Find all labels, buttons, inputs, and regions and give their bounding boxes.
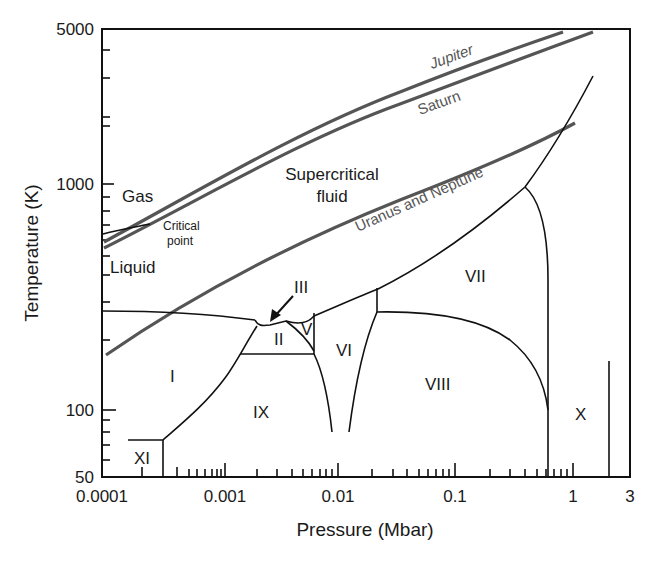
water-phase-diagram: 5000 1000 100 50 0.0001 0.001 0.01 0.1 1…: [0, 0, 650, 561]
label-ice-VIII: VIII: [425, 375, 451, 394]
label-ice-V: V: [301, 320, 313, 339]
label-ice-III: III: [294, 278, 308, 297]
label-jupiter: Jupiter: [426, 40, 476, 72]
label-saturn: Saturn: [415, 87, 462, 118]
y-tick-50: 50: [75, 468, 94, 487]
label-ice-X: X: [575, 405, 586, 424]
label-ice-II: II: [274, 330, 283, 349]
x-tick-1: 1: [568, 487, 577, 506]
melting-curve-ice-I: [103, 311, 255, 320]
label-ice-VII: VII: [465, 267, 486, 286]
x-tick-0.01: 0.01: [321, 487, 354, 506]
label-ice-IX: IX: [253, 403, 269, 422]
y-tick-100: 100: [66, 401, 94, 420]
ice-VI-left-boundary: [314, 354, 332, 432]
label-fluid: fluid: [316, 187, 347, 206]
ice-I-II-boundary: [163, 326, 257, 440]
plot-frame: [102, 29, 630, 477]
label-critical-point: point: [167, 234, 194, 248]
label-critical: Critical: [163, 219, 200, 233]
label-ice-VI: VI: [336, 341, 352, 360]
x-tick-0.1: 0.1: [443, 487, 467, 506]
ice-VII-VIII-boundary: [377, 312, 548, 410]
x-axis-title: Pressure (Mbar): [296, 519, 433, 540]
x-axis-ticks: [142, 463, 573, 477]
y-axis-title: Temperature (K): [21, 184, 42, 321]
jupiter-isentrope: [104, 32, 563, 242]
label-supercritical: Supercritical: [285, 165, 379, 184]
label-liquid: Liquid: [110, 258, 155, 277]
label-gas: Gas: [122, 187, 153, 206]
label-ice-XI: XI: [134, 449, 150, 468]
saturn-isentrope: [104, 32, 593, 248]
x-tick-3: 3: [625, 487, 634, 506]
x-tick-0.0001: 0.0001: [76, 487, 128, 506]
ice-VII-X-boundary: [525, 187, 548, 477]
ice-VI-VIII-boundary: [349, 312, 377, 432]
x-tick-0.001: 0.001: [204, 487, 247, 506]
y-tick-5000: 5000: [56, 20, 94, 39]
y-tick-1000: 1000: [56, 175, 94, 194]
label-ice-I: I: [170, 367, 175, 386]
